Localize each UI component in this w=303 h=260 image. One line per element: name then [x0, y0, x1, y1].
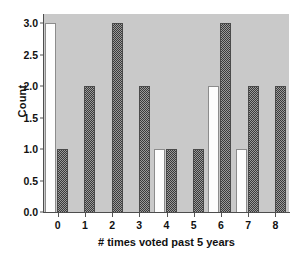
x-tick-mark: [85, 213, 86, 217]
x-tick-label: 6: [211, 219, 231, 231]
bar-hatched-8: [275, 86, 286, 212]
y-tick-label: 1.0: [0, 143, 38, 155]
x-tick-label: 4: [157, 219, 177, 231]
x-tick-label: 5: [184, 219, 204, 231]
bar-light-6: [208, 86, 219, 212]
y-tick-label: 0.5: [0, 175, 38, 187]
x-tick-label: 7: [238, 219, 258, 231]
x-tick-mark: [112, 213, 113, 217]
bar-hatched-1: [84, 86, 95, 212]
x-tick-label: 3: [129, 219, 149, 231]
plot-area: [44, 14, 289, 212]
x-tick-label: 1: [75, 219, 95, 231]
x-tick-label: 2: [102, 219, 122, 231]
x-tick-mark: [139, 213, 140, 217]
bar-hatched-4: [166, 149, 177, 212]
x-tick-mark: [167, 213, 168, 217]
bar-light-4: [154, 149, 165, 212]
x-tick-label: 8: [265, 219, 285, 231]
bar-hatched-3: [139, 86, 150, 212]
x-axis-tick-labels: 012345678: [0, 213, 303, 235]
bar-hatched-5: [193, 149, 204, 212]
y-tick-label: 3.0: [0, 17, 38, 29]
bar-chart-figure: Count 0.00.51.01.52.02.53.0 012345678 # …: [0, 0, 303, 260]
y-tick-label: 2.0: [0, 80, 38, 92]
bar-light-0: [45, 23, 56, 212]
x-tick-mark: [58, 213, 59, 217]
bar-hatched-2: [112, 23, 123, 212]
x-tick-mark: [275, 213, 276, 217]
x-tick-mark: [194, 213, 195, 217]
x-tick-mark: [248, 213, 249, 217]
y-tick-label: 2.5: [0, 49, 38, 61]
bar-hatched-0: [57, 149, 68, 212]
y-tick-label: 1.5: [0, 112, 38, 124]
x-tick-mark: [221, 213, 222, 217]
bar-hatched-6: [220, 23, 231, 212]
x-axis-title: # times voted past 5 years: [44, 236, 289, 248]
bar-hatched-7: [248, 86, 259, 212]
x-tick-label: 0: [48, 219, 68, 231]
bar-light-7: [236, 149, 247, 212]
